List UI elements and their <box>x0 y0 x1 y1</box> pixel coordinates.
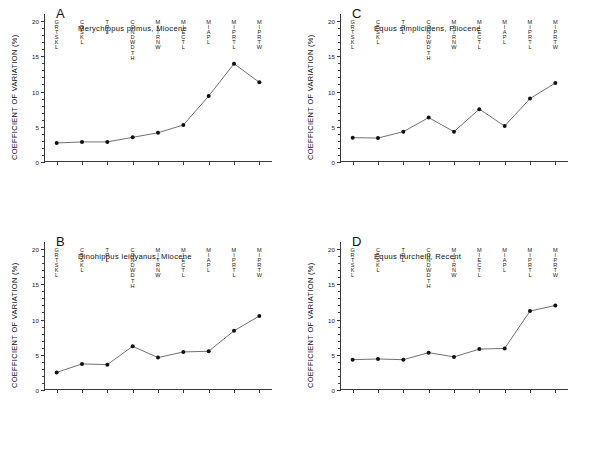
data-point <box>427 116 431 120</box>
y-axis-title: COEFFICIENT OF VARIATION (%) <box>10 238 24 388</box>
data-point <box>257 80 261 84</box>
data-point <box>207 94 211 98</box>
data-point <box>376 136 380 140</box>
data-point <box>181 123 185 127</box>
y-tick-label: 5 <box>36 123 39 130</box>
data-point <box>55 370 59 374</box>
series-line-c <box>340 14 568 162</box>
data-point <box>131 344 135 348</box>
data-point <box>80 362 84 366</box>
y-tick-label: 0 <box>36 159 39 166</box>
y-tick-label: 0 <box>332 159 335 166</box>
data-point <box>181 350 185 354</box>
y-tick-label: 20 <box>32 18 39 25</box>
y-tick-major <box>41 390 45 391</box>
data-point <box>80 140 84 144</box>
y-tick-label: 5 <box>332 351 335 358</box>
panel-a: COEFFICIENT OF VARIATION (%) A Merychipp… <box>0 0 296 228</box>
data-point <box>553 303 557 307</box>
data-point <box>427 351 431 355</box>
y-tick-label: 15 <box>328 281 335 288</box>
data-point <box>351 136 355 140</box>
figure-panels: COEFFICIENT OF VARIATION (%) A Merychipp… <box>0 0 591 456</box>
y-tick-major <box>41 162 45 163</box>
y-tick-label: 5 <box>332 123 335 130</box>
data-point <box>528 309 532 313</box>
data-point <box>401 130 405 134</box>
y-tick-label: 10 <box>328 316 335 323</box>
data-point <box>131 135 135 139</box>
panel-d: COEFFICIENT OF VARIATION (%) D Equus bur… <box>296 228 591 456</box>
y-tick-label: 15 <box>32 281 39 288</box>
data-point <box>232 329 236 333</box>
series-line-a <box>44 14 272 162</box>
series-path <box>353 305 556 359</box>
data-point <box>553 81 557 85</box>
data-point <box>503 124 507 128</box>
plot-area-c: 05101520 GRTSKLCBSKLTRLCONDWDTHMITRNWMIE… <box>340 14 568 162</box>
y-tick-major <box>337 162 341 163</box>
data-point <box>55 141 59 145</box>
y-tick-major <box>337 390 341 391</box>
data-point <box>477 347 481 351</box>
y-axis-title: COEFFICIENT OF VARIATION (%) <box>306 10 320 160</box>
y-axis-title: COEFFICIENT OF VARIATION (%) <box>10 10 24 160</box>
data-point <box>257 314 261 318</box>
data-point <box>477 107 481 111</box>
data-point <box>351 358 355 362</box>
data-point <box>156 356 160 360</box>
y-tick-label: 20 <box>32 246 39 253</box>
y-axis-title: COEFFICIENT OF VARIATION (%) <box>306 238 320 388</box>
y-tick-label: 20 <box>328 246 335 253</box>
y-tick-label: 5 <box>36 351 39 358</box>
series-line-b <box>44 242 272 390</box>
y-tick-label: 10 <box>32 316 39 323</box>
plot-area-b: 05101520 GRTSKLCBSKLTRLCONDWDTHMITRNWMIE… <box>44 242 272 390</box>
panel-c: COEFFICIENT OF VARIATION (%) C Equus sim… <box>296 0 591 228</box>
data-point <box>105 140 109 144</box>
y-tick-label: 0 <box>332 387 335 394</box>
data-point <box>105 363 109 367</box>
y-tick-label: 0 <box>36 387 39 394</box>
data-point <box>503 346 507 350</box>
series-line-d <box>340 242 568 390</box>
data-point <box>376 357 380 361</box>
plot-area-d: 05101520 GRTSKLCBSKLTRLCONDWDTHMITRNWMIE… <box>340 242 568 390</box>
series-path <box>57 316 260 372</box>
y-tick-label: 20 <box>328 18 335 25</box>
y-tick-label: 10 <box>328 88 335 95</box>
y-tick-label: 15 <box>32 53 39 60</box>
data-point <box>452 130 456 134</box>
panel-b: COEFFICIENT OF VARIATION (%) B Dinohippu… <box>0 228 296 456</box>
data-point <box>156 131 160 135</box>
data-point <box>401 358 405 362</box>
y-tick-label: 15 <box>328 53 335 60</box>
data-point <box>232 62 236 66</box>
data-point <box>528 97 532 101</box>
y-tick-label: 10 <box>32 88 39 95</box>
data-point <box>207 349 211 353</box>
data-point <box>452 355 456 359</box>
plot-area-a: 05101520 GRTSKLCBSKLTRLCONDWDTHMITRNWMIE… <box>44 14 272 162</box>
